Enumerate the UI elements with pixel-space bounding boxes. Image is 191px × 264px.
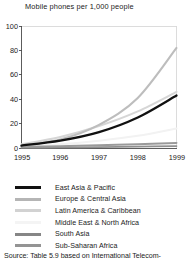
legend-color-swatch	[15, 221, 41, 223]
chart-title: Mobile phones per 1,000 people	[25, 2, 134, 11]
series-line	[22, 48, 177, 146]
line-chart-svg: 020406080100 19951996199719981999	[0, 18, 191, 160]
legend-item-label: Sub-Saharan Africa	[55, 242, 117, 250]
legend-item[interactable]: East Asia & Pacific	[0, 182, 191, 194]
x-tick-label: 1998	[130, 153, 146, 161]
legend-item-label: East Asia & Pacific	[55, 184, 115, 192]
y-tick-label: 40	[10, 95, 18, 104]
legend-item[interactable]: Europe & Central Asia	[0, 194, 191, 206]
legend-color-swatch	[15, 198, 41, 201]
legend-color-swatch	[15, 209, 41, 212]
mobile-phones-chart-figure: Mobile phones per 1,000 people 020406080…	[0, 0, 191, 264]
series-line	[22, 92, 177, 144]
legend-color-swatch	[15, 233, 41, 236]
legend-item-label: South Asia	[55, 230, 89, 238]
y-tick-label: 20	[10, 119, 18, 128]
legend-swatch-cell	[0, 233, 55, 236]
legend-item-label: Middle East & North Africa	[55, 219, 139, 227]
x-tick-label: 1996	[52, 153, 68, 161]
x-tick-label: 1995	[14, 153, 30, 161]
legend-swatch-cell	[0, 221, 55, 223]
legend-item-label: Latin America & Caribbean	[55, 207, 141, 215]
legend-swatch-cell	[0, 198, 55, 201]
series-lines-group	[22, 48, 177, 148]
legend-item-label: Europe & Central Asia	[55, 195, 126, 203]
plot-area: 020406080100 19951996199719981999	[0, 18, 191, 160]
legend-swatch-cell	[0, 244, 55, 247]
y-tick-label: 60	[10, 70, 18, 79]
legend-item[interactable]: Sub-Saharan Africa	[0, 240, 191, 252]
y-axis-tick-labels: 020406080100	[6, 22, 18, 153]
x-tick-label: 1999	[169, 153, 185, 161]
y-tick-label: 80	[10, 46, 18, 55]
chart-legend: East Asia & PacificEurope & Central Asia…	[0, 182, 191, 252]
legend-color-swatch	[15, 244, 41, 247]
legend-swatch-cell	[0, 209, 55, 212]
y-tick-label: 100	[6, 22, 18, 31]
legend-swatch-cell	[0, 186, 55, 189]
legend-item[interactable]: South Asia	[0, 228, 191, 240]
legend-item[interactable]: Latin America & Caribbean	[0, 205, 191, 217]
source-note: Source: Table 5.9 based on International…	[4, 252, 191, 260]
x-tick-label: 1997	[91, 153, 107, 161]
legend-color-swatch	[15, 186, 41, 189]
y-tick-label: 0	[14, 144, 18, 153]
plot-frame	[19, 26, 176, 148]
legend-item[interactable]: Middle East & North Africa	[0, 217, 191, 229]
x-axis-tick-labels: 19951996199719981999	[14, 153, 185, 161]
